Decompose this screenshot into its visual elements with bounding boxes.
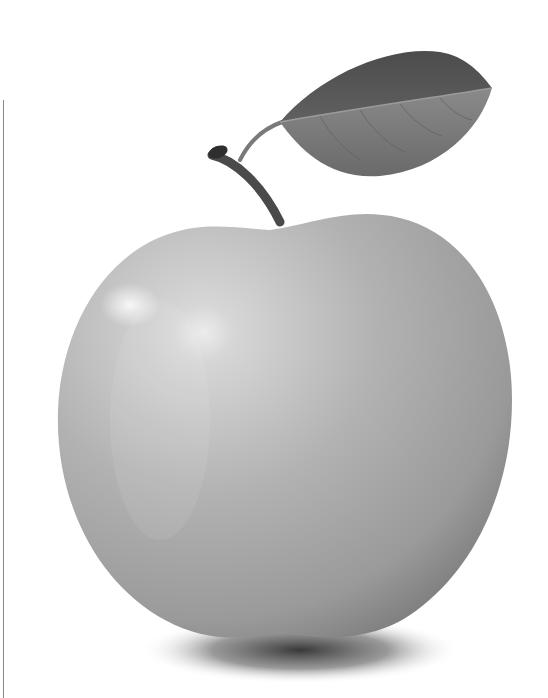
- apple-photo: [0, 0, 548, 698]
- apple-body: [58, 214, 512, 637]
- leaf-petiole: [240, 122, 282, 160]
- apple-leaf: [280, 51, 492, 176]
